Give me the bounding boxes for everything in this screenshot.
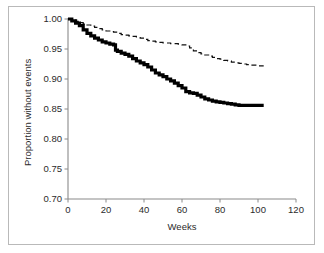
survival-plot-svg — [0, 0, 324, 253]
axes-group — [65, 18, 297, 203]
y-tick-label-1: 0.75 — [26, 163, 62, 174]
x-tick-label-1: 20 — [92, 204, 120, 215]
y-tick-label-5: 0.95 — [26, 43, 62, 54]
x-tick-label-3: 60 — [168, 204, 196, 215]
y-tick-label-3: 0.85 — [26, 103, 62, 114]
x-tick-label-4: 80 — [206, 204, 234, 215]
y-tick-label-4: 0.90 — [26, 73, 62, 84]
y-tick-label-2: 0.80 — [26, 133, 62, 144]
y-tick-label-6: 1.00 — [26, 13, 62, 24]
x-tick-label-5: 100 — [244, 204, 272, 215]
y-tick-label-0: 0.70 — [26, 193, 62, 204]
x-tick-label-0: 0 — [54, 204, 82, 215]
x-tick-label-2: 40 — [130, 204, 158, 215]
x-tick-label-6: 120 — [282, 204, 310, 215]
x-axis-title: Weeks — [48, 221, 316, 232]
series-path-upper-curve-dashed — [68, 19, 264, 66]
figure-container: Proportion without events Weeks 0.700.75… — [0, 0, 324, 253]
series-group — [68, 19, 264, 105]
